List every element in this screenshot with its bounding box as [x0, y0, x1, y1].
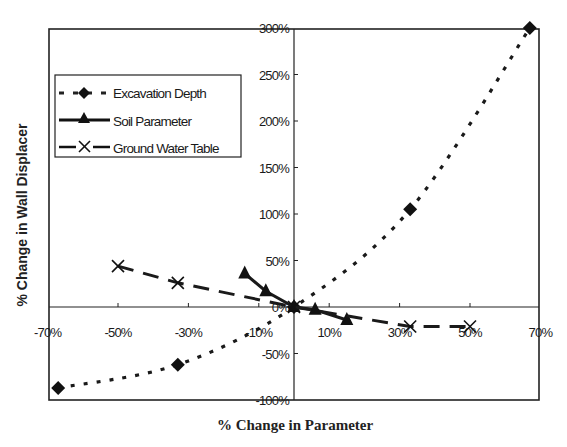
y-tick-label: 300%: [259, 21, 290, 36]
x-tick-label: -10%: [245, 325, 273, 340]
diamond-marker-icon: [171, 358, 185, 372]
y-axis-title: % Change in Wall Displacer: [14, 123, 30, 307]
series-soil-parameter: [238, 266, 353, 326]
legend-label-ground-water-table: Ground Water Table: [113, 141, 219, 156]
y-tick-label: 150%: [259, 161, 290, 176]
x-tick-label: 10%: [317, 325, 342, 340]
legend-label-excavation-depth: Excavation Depth: [113, 86, 206, 101]
diamond-marker-icon: [523, 21, 537, 35]
legend: Excavation Depth Soil Parameter Ground W…: [55, 75, 241, 157]
legend-label-soil-parameter: Soil Parameter: [113, 114, 192, 129]
y-tick-label: 100%: [259, 207, 290, 222]
diamond-marker-icon: [51, 381, 65, 395]
x-tick-label: 70%: [529, 325, 554, 340]
y-tick-label: 50%: [265, 254, 290, 269]
y-tick-label: 200%: [259, 114, 290, 129]
x-tick-label: -50%: [104, 325, 132, 340]
y-tick-label: -50%: [262, 347, 290, 362]
y-tick-label: -100%: [255, 393, 290, 408]
diamond-marker-icon: [403, 202, 417, 216]
x-tick-label: -30%: [175, 325, 203, 340]
x-tick-label: -70%: [34, 325, 62, 340]
triangle-marker-icon: [259, 283, 272, 296]
triangle-marker-icon: [238, 266, 251, 279]
y-tick-label: 250%: [259, 68, 290, 83]
x-axis-title: % Change in Parameter: [217, 417, 374, 433]
line-chart: -70%-50%-30%-10%10%30%50%70%300%250%200%…: [0, 0, 567, 447]
